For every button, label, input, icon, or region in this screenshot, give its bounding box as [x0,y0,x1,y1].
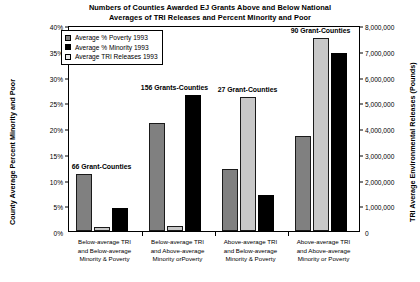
y-axis-right-tick-mark [359,155,363,156]
bar-poverty [295,136,311,231]
x-axis-category-line: Above-average TRI [214,238,287,247]
y-axis-right-tick-label: 6,000,000 [359,75,394,82]
x-axis-category-line: and Below-average [214,247,287,256]
y-axis-right-tick-label: 5,000,000 [359,101,394,108]
y-axis-right-tick-mark [359,181,363,182]
bar-minority [185,95,201,231]
legend-item-tri: Average TRI Releases 1993 [65,52,158,62]
x-axis-category-label: Above-average TRIand Below-averageMinori… [214,238,287,264]
group-annotation: 90 Grant-Counties [291,27,351,34]
x-axis-category-line: Above-average TRI [287,238,360,247]
legend-swatch-tri-icon [65,54,71,60]
group-annotation: 27 Grant-Counties [218,86,278,93]
legend-label-poverty: Average % Poverty 1993 [75,34,148,41]
y-axis-right-tick-mark [359,27,363,28]
y-axis-right-tick-label: 0 [359,230,369,237]
y-axis-right-title-text: TRI Average Environmental Releases (Poun… [408,62,417,222]
bar-tri [313,38,329,231]
x-axis-category-line: and Above-average [141,247,214,256]
y-axis-right-tick-label: 3,000,000 [359,152,394,159]
x-axis-category-label: Above-average TRIand Above-averageMinori… [287,238,360,264]
chart-container: Numbers of Counties Awarded EJ Grants Ab… [0,0,420,282]
chart-title-line-2: Averages of TRI Releases and Percent Min… [0,13,420,23]
y-axis-right-tick-label: 8,000,000 [359,24,394,31]
x-axis-separator [142,231,143,236]
y-axis-left-title-text: County Average Percent Minority and Poor [8,79,17,225]
legend-label-tri: Average TRI Releases 1993 [75,53,158,60]
y-axis-right-tick-mark [359,78,363,79]
x-axis-category-line: Below-average TRI [141,238,214,247]
y-axis-right-tick-mark [359,52,363,53]
chart-title: Numbers of Counties Awarded EJ Grants Ab… [0,3,420,22]
x-axis-category-label: Below-average TRIand Above-averageMinori… [141,238,214,264]
x-axis-separator [288,231,289,236]
bar-poverty [222,169,238,231]
x-axis-category-line: Below-average TRI [68,238,141,247]
legend-label-minority: Average % Minority 1993 [75,44,149,51]
y-axis-left-tick-label: 0% [53,230,69,237]
bar-tri [240,97,256,231]
y-axis-right-tick-label: 1,000,000 [359,204,394,211]
y-axis-right-tick-mark [359,104,363,105]
x-axis-separator [215,231,216,236]
legend-item-minority: Average % Minority 1993 [65,43,158,53]
bar-minority [331,53,347,231]
x-axis-category-labels: Below-average TRIand Below-averageMinori… [68,238,360,280]
y-axis-right-tick-label: 2,000,000 [359,178,394,185]
x-axis-category-line: Minority orPoverty [141,255,214,264]
bar-tri [167,226,183,231]
x-axis-category-line: Minority or Poverty [287,255,360,264]
y-axis-right-tick-mark [359,207,363,208]
x-axis-category-line: and Above-average [287,247,360,256]
y-axis-right-tick-mark [359,130,363,131]
y-axis-right-tick-label: 7,000,000 [359,49,394,56]
group-annotation: 66 Grant-Counties [72,163,132,170]
x-axis-category-line: Minority & Poverty [214,255,287,264]
legend-item-poverty: Average % Poverty 1993 [65,33,158,43]
bar-minority [258,195,274,231]
chart-title-line-1: Numbers of Counties Awarded EJ Grants Ab… [0,3,420,13]
x-axis-category-line: Minority & Poverty [68,255,141,264]
x-axis-category-line: and Below-average [68,247,141,256]
y-axis-right-tick-label: 4,000,000 [359,127,394,134]
x-axis-category-label: Below-average TRIand Below-averageMinori… [68,238,141,264]
legend-swatch-minority-icon [65,44,71,50]
bar-minority [112,208,128,231]
legend-swatch-poverty-icon [65,35,71,41]
bar-poverty [76,174,92,231]
bar-poverty [149,123,165,231]
group-annotation: 156 Grants-Counties [141,84,208,91]
legend: Average % Poverty 1993 Average % Minorit… [61,30,163,65]
bar-tri [94,227,110,231]
